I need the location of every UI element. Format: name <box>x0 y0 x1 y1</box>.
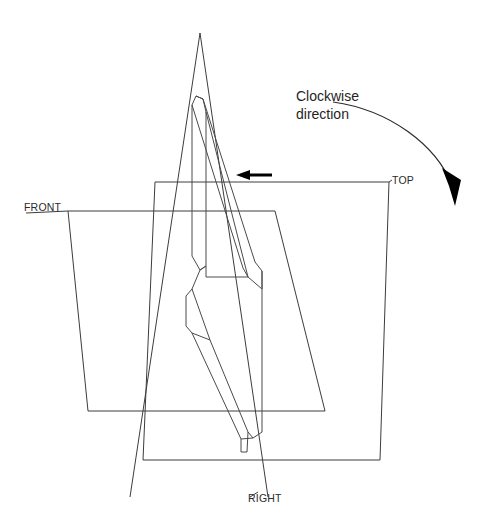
bracket-upper-arm-near-face <box>192 96 206 270</box>
plane-top <box>143 182 389 460</box>
straight-direction-arrow <box>236 170 272 180</box>
plane-front <box>68 211 325 411</box>
label-top: TOP <box>392 174 414 186</box>
clockwise-annotation-line1: Clockwise <box>296 88 359 104</box>
bracket-top-slant-edge <box>192 105 248 277</box>
rotation-arc <box>333 102 452 185</box>
diagram-canvas: FRONT TOP RIGHT Clockwise direction <box>0 0 487 526</box>
bracket-foot-notch-edge <box>192 289 210 340</box>
label-right: RIGHT <box>248 492 282 504</box>
label-front: FRONT <box>24 201 62 213</box>
bracket-foot-heel <box>241 432 248 452</box>
plane-right <box>130 33 268 497</box>
front-plane-edge-east <box>275 211 325 411</box>
bracket-thickness-edge-upper <box>200 266 206 270</box>
clockwise-annotation-line2: direction <box>296 106 349 122</box>
object-angle-bracket <box>186 96 262 452</box>
bracket-lower-foot-near-face <box>186 289 262 438</box>
top-plane-edge-west <box>143 182 155 460</box>
clockwise-rotation-indicator <box>333 102 461 206</box>
rotation-arrow-head-icon <box>442 168 461 206</box>
bracket-bend-near <box>192 270 200 289</box>
arrow-head-icon <box>236 170 250 180</box>
right-plane-edge-west <box>130 33 200 497</box>
bracket-bend-far <box>206 266 248 277</box>
top-plane-edge-east <box>380 182 389 460</box>
projection-planes-svg: FRONT TOP RIGHT Clockwise direction <box>0 0 487 526</box>
front-plane-edge-west <box>68 211 88 411</box>
